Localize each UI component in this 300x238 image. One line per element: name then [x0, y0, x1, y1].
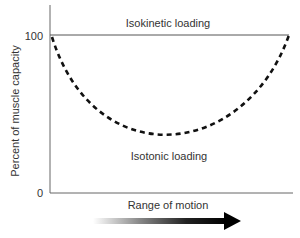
chart-canvas: 100 0 Percent of muscle capacity Isokine… [0, 0, 300, 238]
isotonic-curve [52, 35, 289, 135]
isokinetic-label: Isokinetic loading [126, 17, 210, 29]
y-axis-label: Percent of muscle capacity [9, 45, 21, 177]
isotonic-label: Isotonic loading [131, 150, 207, 162]
y-tick-0: 0 [37, 187, 43, 199]
x-axis-label: Range of motion [128, 199, 209, 211]
y-tick-100: 100 [25, 30, 43, 42]
range-of-motion-arrow-icon [93, 212, 241, 230]
